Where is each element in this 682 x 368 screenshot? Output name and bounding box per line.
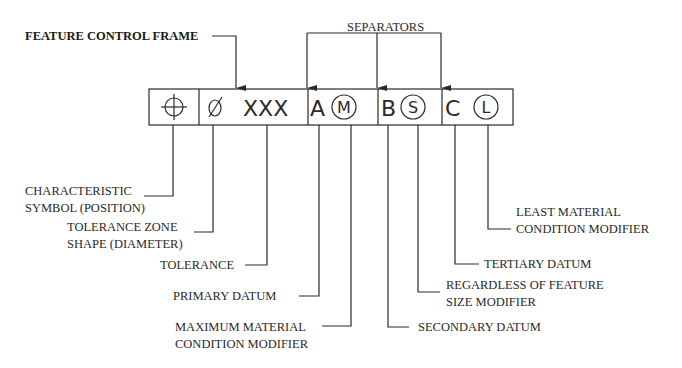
feature-control-frame-leader <box>212 36 236 88</box>
secondary-datum-letter: B <box>381 96 396 121</box>
svg-text:TOLERANCE ZONE: TOLERANCE ZONE <box>67 220 178 234</box>
mmc-leader <box>322 125 351 326</box>
lmc-leader <box>488 125 511 229</box>
primary-datum-letter: A <box>310 96 325 121</box>
secondary-datum-leader <box>388 125 409 327</box>
characteristic-leader <box>144 125 173 196</box>
callout-tolerance: TOLERANCE <box>160 258 234 272</box>
zone-shape-leader <box>194 125 213 232</box>
svg-text:CONDITION MODIFIER: CONDITION MODIFIER <box>516 222 650 236</box>
tolerance-leader <box>245 125 267 265</box>
callout-zone-shape: TOLERANCE ZONE SHAPE (DIAMETER) <box>67 220 183 251</box>
tolerance-value: XXX <box>243 96 288 121</box>
svg-text:REGARDLESS OF FEATURE: REGARDLESS OF FEATURE <box>446 278 604 292</box>
svg-text:SHAPE (DIAMETER): SHAPE (DIAMETER) <box>67 237 183 251</box>
svg-text:CONDITION MODIFIER: CONDITION MODIFIER <box>175 337 309 351</box>
svg-text:LEAST MATERIAL: LEAST MATERIAL <box>516 205 621 219</box>
callout-tertiary-datum: TERTIARY DATUM <box>484 257 591 271</box>
lmc-modifier-letter: L <box>482 98 491 117</box>
callout-secondary-datum: SECONDARY DATUM <box>418 320 541 334</box>
svg-text:CHARACTERISTIC: CHARACTERISTIC <box>25 184 132 198</box>
svg-text:SYMBOL (POSITION): SYMBOL (POSITION) <box>25 201 145 215</box>
rfs-modifier-letter: S <box>408 98 418 117</box>
tertiary-datum-leader <box>455 125 479 264</box>
mmc-modifier-letter: M <box>337 98 351 117</box>
svg-text:SIZE MODIFIER: SIZE MODIFIER <box>446 295 537 309</box>
callout-rfs-modifier: REGARDLESS OF FEATURE SIZE MODIFIER <box>446 278 604 309</box>
feature-control-frame-diagram: FEATURE CONTROL FRAME SEPARATORS XXX A M… <box>0 0 682 368</box>
callout-primary-datum: PRIMARY DATUM <box>173 289 276 303</box>
tertiary-datum-letter: C <box>445 96 460 121</box>
rfs-leader <box>418 125 440 292</box>
diameter-symbol-icon <box>209 97 222 117</box>
svg-text:MAXIMUM MATERIAL: MAXIMUM MATERIAL <box>175 320 306 334</box>
callout-characteristic: CHARACTERISTIC SYMBOL (POSITION) <box>25 184 145 215</box>
primary-datum-leader <box>299 125 319 296</box>
separators-label: SEPARATORS <box>347 20 424 34</box>
callout-lmc-modifier: LEAST MATERIAL CONDITION MODIFIER <box>516 205 650 236</box>
position-symbol-icon <box>161 94 187 120</box>
feature-control-frame-label: FEATURE CONTROL FRAME <box>25 29 198 43</box>
callout-mmc-modifier: MAXIMUM MATERIAL CONDITION MODIFIER <box>175 320 309 351</box>
